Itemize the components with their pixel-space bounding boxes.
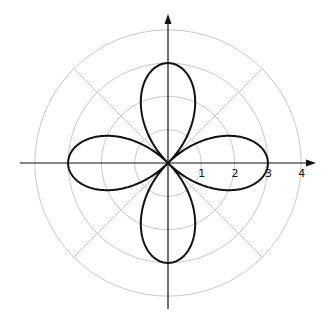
x-tick-2: 2 <box>232 167 239 180</box>
x-tick-4: 4 <box>298 167 305 180</box>
x-tick-1: 1 <box>198 167 205 180</box>
x-tick-3: 3 <box>265 167 272 180</box>
grid-radial-45 <box>168 69 262 163</box>
axes <box>20 14 316 309</box>
grid-radial-135 <box>74 69 168 163</box>
polar-plot: 1234 <box>0 0 331 323</box>
grid-radial-225 <box>74 163 168 257</box>
x-axis-arrow-icon <box>306 160 316 167</box>
grid-radial-315 <box>168 163 262 257</box>
x-tick-labels: 1234 <box>198 167 305 180</box>
y-axis-arrow-icon <box>165 14 172 24</box>
